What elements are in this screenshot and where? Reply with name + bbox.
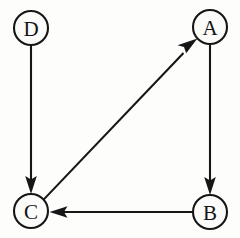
edge-b-to-c bbox=[50, 206, 194, 218]
node-d-label: D bbox=[23, 17, 38, 41]
edge-layer bbox=[25, 38, 216, 217]
node-d[interactable]: D bbox=[14, 11, 48, 45]
node-b-label: B bbox=[203, 201, 217, 225]
node-c[interactable]: C bbox=[14, 194, 48, 228]
edge-d-to-c bbox=[25, 45, 37, 194]
node-b[interactable]: B bbox=[193, 195, 227, 229]
edge-c-to-a-arrowhead bbox=[178, 38, 198, 53]
node-a[interactable]: A bbox=[193, 10, 227, 44]
node-a-label: A bbox=[202, 16, 218, 40]
edge-c-to-a-line bbox=[44, 53, 184, 200]
graph-canvas: D A C B bbox=[0, 0, 240, 238]
graph-figure: D A C B bbox=[0, 0, 240, 238]
node-c-label: C bbox=[24, 200, 38, 224]
edge-c-to-a bbox=[44, 38, 198, 199]
edge-a-to-b bbox=[204, 44, 216, 195]
